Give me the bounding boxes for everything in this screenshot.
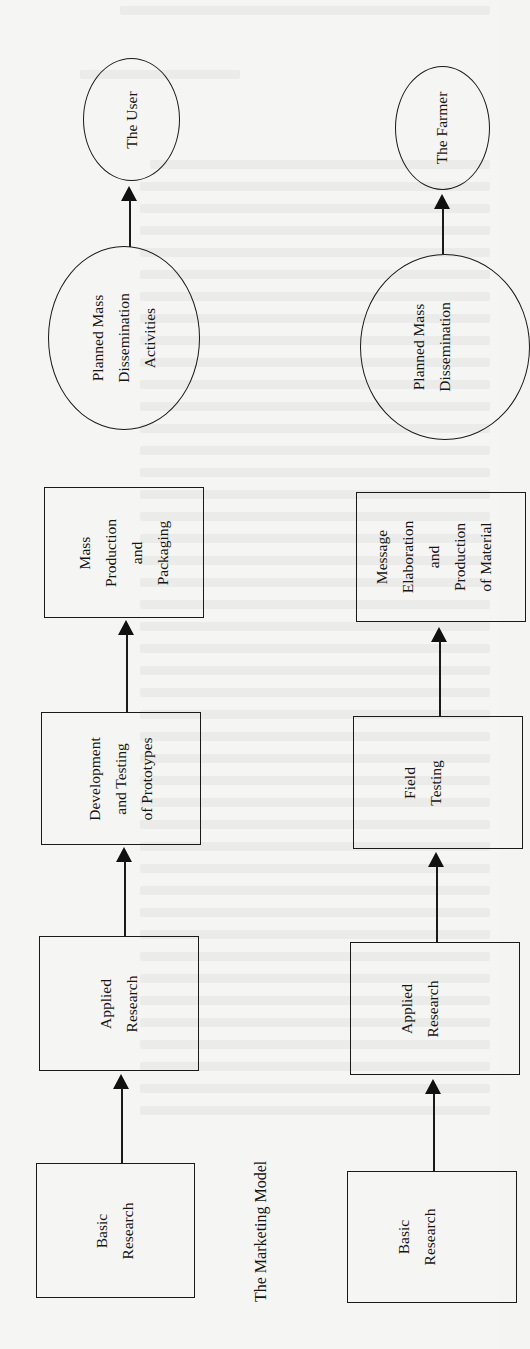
node-applied-research-right: Applied Research: [350, 942, 520, 1075]
node-label: Message Elaboration and Production of Ma…: [369, 521, 499, 593]
node-label: Applied Research: [93, 975, 145, 1032]
node-basic-research: Basic Research: [36, 1163, 195, 1298]
node-field-testing: Field Testing: [353, 716, 523, 849]
connector-line: [442, 208, 444, 254]
arrowhead-icon: [425, 1079, 441, 1094]
node-planned-mass-dissemination: Planned Mass Dissemination: [360, 254, 530, 440]
figure-caption: The Marketing Model: [252, 1161, 270, 1302]
connector-line: [433, 1093, 435, 1171]
node-label: Planned Mass Dissemination: [406, 302, 458, 392]
node-label: The User: [119, 91, 145, 148]
connector-line: [436, 866, 438, 942]
arrowhead-icon: [118, 620, 134, 635]
arrowhead-icon: [428, 852, 444, 867]
connector-line: [121, 1088, 123, 1163]
node-label: Mass Production and Packaging: [72, 518, 176, 586]
arrowhead-icon: [116, 847, 132, 862]
node-label: The Farmer: [429, 92, 455, 165]
node-planned-mass-dissemination-activities: Planned Mass Dissemination Activities: [48, 246, 200, 430]
node-the-user: The User: [83, 58, 180, 181]
node-the-farmer: The Farmer: [395, 66, 490, 190]
node-label: Development and Testing of Prototypes: [82, 737, 160, 821]
node-message-elaboration-production: Message Elaboration and Production of Ma…: [356, 492, 526, 622]
connector-line: [126, 634, 128, 712]
node-label: Basic Research: [391, 1209, 443, 1266]
arrowhead-icon: [434, 194, 450, 209]
node-label: Applied Research: [394, 980, 446, 1037]
node-label: Planned Mass Dissemination Activities: [85, 293, 163, 383]
node-basic-research-right: Basic Research: [347, 1171, 517, 1303]
arrowhead-icon: [113, 1074, 129, 1089]
node-label: Field Testing: [397, 760, 449, 805]
node-mass-production-packaging: Mass Production and Packaging: [44, 487, 204, 618]
node-development-testing-prototypes: Development and Testing of Prototypes: [41, 712, 201, 845]
node-applied-research: Applied Research: [39, 936, 199, 1071]
connector-line: [129, 200, 131, 247]
connector-line: [439, 641, 441, 716]
node-label: Basic Research: [90, 1202, 142, 1259]
arrowhead-icon: [121, 186, 137, 201]
connector-line: [124, 861, 126, 936]
arrowhead-icon: [431, 627, 447, 642]
